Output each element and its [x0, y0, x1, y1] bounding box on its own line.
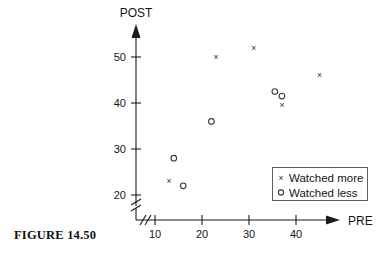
data-point-cross: ×	[317, 70, 322, 80]
x-tick-label-10: 10	[149, 228, 161, 240]
y-axis-arrowhead	[132, 24, 141, 38]
y-axis	[131, 24, 141, 220]
y-axis-title: POST	[120, 6, 153, 20]
data-point-circle	[272, 89, 278, 95]
x-axis-arrowhead	[326, 216, 340, 225]
figure-container: 50 40 30 20 POST 10 20 30 40 PRE	[0, 0, 379, 262]
legend-marker-watched-more-icon: ×	[279, 173, 284, 183]
data-point-cross: ×	[214, 52, 219, 62]
x-tick-label-20: 20	[196, 228, 208, 240]
y-tick-label-20: 20	[114, 189, 126, 201]
legend-label-watched-less: Watched less	[289, 187, 358, 199]
data-point-cross: ×	[279, 100, 284, 110]
data-point-circle	[279, 93, 285, 99]
x-tick-label-40: 40	[290, 228, 302, 240]
data-point-circle	[171, 155, 177, 161]
data-point-circle	[209, 119, 215, 125]
data-points-layer: ×××××	[167, 43, 322, 189]
x-tick-label-30: 30	[243, 228, 255, 240]
legend-label-watched-more: Watched more	[289, 172, 363, 184]
y-tick-label-50: 50	[114, 51, 126, 63]
legend: × Watched more Watched less	[273, 168, 368, 201]
figure-caption: FIGURE 14.50	[14, 228, 96, 243]
series-watched-less	[171, 89, 285, 189]
x-axis-title: PRE	[348, 214, 373, 228]
data-point-cross: ×	[167, 176, 172, 186]
y-tick-label-40: 40	[114, 97, 126, 109]
y-tick-label-30: 30	[114, 143, 126, 155]
data-point-cross: ×	[251, 43, 256, 53]
y-axis-break-icon	[131, 198, 141, 220]
x-axis	[136, 215, 340, 225]
data-point-circle	[180, 183, 186, 189]
scatter-plot: 50 40 30 20 POST 10 20 30 40 PRE	[0, 0, 379, 262]
series-watched-more: ×××××	[167, 43, 322, 186]
